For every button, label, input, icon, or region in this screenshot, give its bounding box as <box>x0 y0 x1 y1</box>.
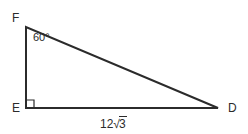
vertex-label-f: F <box>12 12 19 24</box>
radical-expression: 12√3 <box>100 118 127 130</box>
radicand-value: 3 <box>119 116 127 131</box>
angle-measure-label-f: 60° <box>33 32 50 43</box>
triangle-drawing <box>0 0 248 134</box>
triangle-outline-FED <box>26 27 218 108</box>
vertex-label-e: E <box>12 102 20 114</box>
right-angle-marker-icon <box>26 100 34 108</box>
geometry-figure: F E D 60° 12√3 <box>0 0 248 134</box>
vertex-label-d: D <box>228 102 237 114</box>
side-length-label-ed: 12√3 <box>100 118 127 130</box>
radical-coefficient: 12 <box>100 117 113 131</box>
